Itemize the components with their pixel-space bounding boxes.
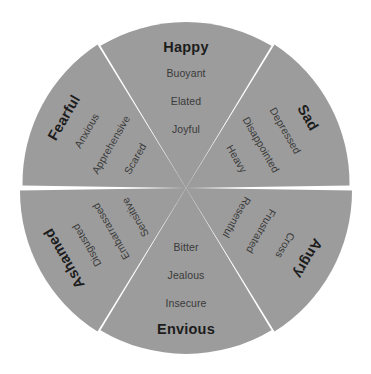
category-label-envious: Envious [157,321,215,337]
sub-label-happy-3: Joyful [172,123,200,135]
sub-label-happy-2: Elated [171,95,201,107]
sub-label-envious-1: Bitter [173,241,199,253]
sub-label-envious-2: Jealous [168,269,205,281]
category-label-happy: Happy [163,39,208,55]
emotion-wheel-diagram: Happy Buoyant Elated Joyful Sad Depresse… [0,0,371,374]
emotion-wheel-canvas: Happy Buoyant Elated Joyful Sad Depresse… [0,0,371,374]
sub-label-envious-3: Insecure [165,297,206,309]
sub-label-happy-1: Buoyant [166,67,205,79]
